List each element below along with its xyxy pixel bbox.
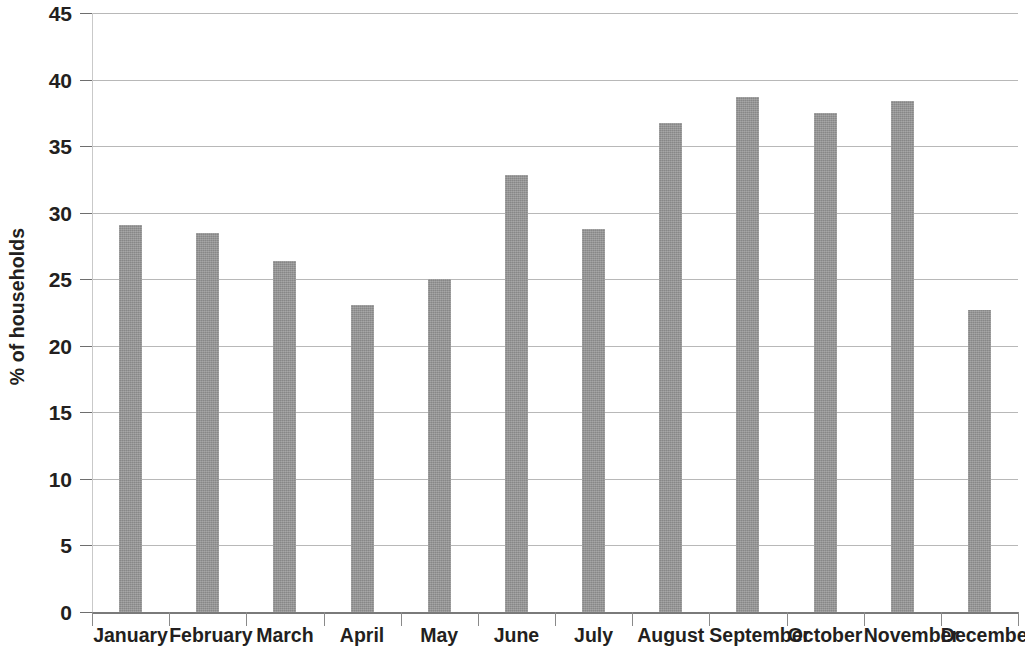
bar-august <box>659 123 682 612</box>
y-axis-line <box>92 13 93 612</box>
gridline <box>92 346 1018 347</box>
bar-june <box>505 175 528 612</box>
y-tick-mark <box>80 412 92 413</box>
y-tick-label: 30 <box>2 202 72 223</box>
bar-may <box>428 279 451 612</box>
y-tick-label: 10 <box>2 468 72 489</box>
gridline <box>92 412 1018 413</box>
gridline <box>92 545 1018 546</box>
gridline <box>92 146 1018 147</box>
y-axis: 051015202530354045 <box>0 0 92 612</box>
gridline <box>92 13 1018 14</box>
bar-october <box>814 113 837 612</box>
bar-chart: % of households 051015202530354045 Janua… <box>0 0 1025 647</box>
x-axis-labels: JanuaryFebruaryMarchAprilMayJuneJulyAugu… <box>0 624 1025 647</box>
y-tick-mark <box>80 213 92 214</box>
plot-area <box>92 13 1018 612</box>
bar-april <box>351 305 374 612</box>
y-tick-label: 25 <box>2 269 72 290</box>
x-tick-label-may: May <box>401 624 478 647</box>
x-tick-label-july: July <box>555 624 632 647</box>
x-tick-label-december: December <box>941 624 1018 647</box>
x-tick-label-january: January <box>92 624 169 647</box>
x-tick-label-august: August <box>632 624 709 647</box>
y-tick-mark <box>80 479 92 480</box>
x-tick-label-june: June <box>478 624 555 647</box>
y-tick-label: 40 <box>2 69 72 90</box>
y-tick-mark <box>80 13 92 14</box>
gridline <box>92 213 1018 214</box>
x-tick-label-september: September <box>709 624 786 647</box>
bar-december <box>968 310 991 612</box>
y-tick-label: 35 <box>2 136 72 157</box>
gridline <box>92 279 1018 280</box>
gridline <box>92 479 1018 480</box>
bar-february <box>196 233 219 612</box>
y-tick-mark <box>80 279 92 280</box>
bar-september <box>736 97 759 612</box>
bar-november <box>891 101 914 612</box>
y-tick-mark <box>80 146 92 147</box>
bar-july <box>582 229 605 612</box>
y-tick-mark <box>80 346 92 347</box>
y-tick-label: 15 <box>2 402 72 423</box>
x-tick-label-october: October <box>787 624 864 647</box>
x-tick-label-november: November <box>864 624 941 647</box>
x-tick-label-february: February <box>169 624 246 647</box>
y-tick-mark <box>80 545 92 546</box>
gridline <box>92 80 1018 81</box>
y-tick-label: 5 <box>2 535 72 556</box>
y-tick-label: 20 <box>2 335 72 356</box>
x-tick-label-march: March <box>246 624 323 647</box>
x-tick-label-april: April <box>324 624 401 647</box>
y-tick-mark <box>80 80 92 81</box>
bar-january <box>119 225 142 612</box>
y-tick-label: 45 <box>2 3 72 24</box>
bar-march <box>273 261 296 612</box>
